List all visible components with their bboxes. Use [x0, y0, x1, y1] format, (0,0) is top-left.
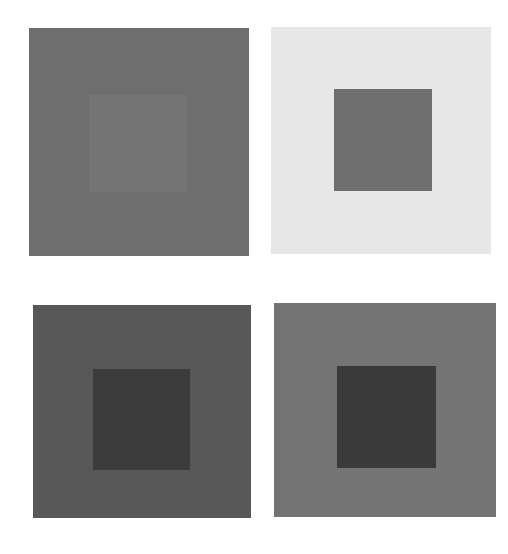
outer-square-bottom-right: [274, 303, 496, 517]
outer-square-top-right: [271, 27, 491, 254]
inner-square-top-left: [89, 95, 187, 192]
inner-square-bottom-left: [93, 369, 190, 470]
outer-square-top-left: [29, 28, 249, 256]
inner-square-bottom-right: [337, 366, 436, 468]
inner-square-top-right: [334, 89, 432, 191]
outer-square-bottom-left: [33, 305, 251, 518]
